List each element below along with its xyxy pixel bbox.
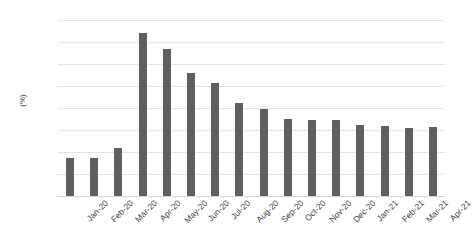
x-axis-tick-label: Aug-20 (254, 198, 280, 224)
bar-slot (227, 20, 251, 196)
x-axis-tick-label: Jul-20 (229, 198, 252, 221)
bar-slot (324, 20, 348, 196)
bar-slot (397, 20, 421, 196)
bar-slot (203, 20, 227, 196)
bar-slot (372, 20, 396, 196)
x-axis-tick-label: Apr-20 (157, 198, 182, 223)
gridline (58, 196, 445, 197)
bar-slot (179, 20, 203, 196)
x-axis-tick-label: Jan-21 (375, 198, 400, 223)
x-axis-tick-label: Mar-20 (133, 198, 159, 224)
bar (211, 83, 219, 196)
bar (429, 127, 437, 196)
bar (308, 120, 316, 196)
bar-slot (155, 20, 179, 196)
x-axis-tick-label: Feb-21 (399, 198, 425, 224)
x-axis-tick-label: Jan-20 (85, 198, 110, 223)
bar (163, 49, 171, 196)
bar (284, 119, 292, 196)
bar-slot (106, 20, 130, 196)
bar (260, 109, 268, 196)
bar (381, 126, 389, 196)
x-axis-tick-labels: Jan-20Feb-20Mar-20Apr-20May-20Jun-20Jul-… (58, 198, 445, 246)
x-axis-tick-label: Jun-20 (206, 198, 231, 223)
plot-area: 0.02.04.06.08.010.012.014.016.0 (58, 20, 445, 196)
x-axis-tick-label: Dec-20 (351, 198, 377, 224)
bar (66, 158, 74, 197)
x-axis-tick-label: Apr-21 (447, 198, 472, 223)
bar-slot (348, 20, 372, 196)
bar-slot (300, 20, 324, 196)
bar-slot (276, 20, 300, 196)
y-axis-title: (%) (18, 81, 27, 121)
bar (139, 33, 147, 196)
x-axis-tick-label: Feb-20 (109, 198, 135, 224)
bar-slot (252, 20, 276, 196)
x-axis-tick-label: Mar-21 (424, 198, 450, 224)
bar-slot (58, 20, 82, 196)
x-axis-tick-label: Oct-20 (302, 198, 327, 223)
x-axis-tick-label: May-20 (182, 198, 209, 225)
bar (356, 125, 364, 197)
bar (90, 158, 98, 197)
bar-slot (131, 20, 155, 196)
bar-slot (421, 20, 445, 196)
bar-slot (82, 20, 106, 196)
bar (332, 120, 340, 196)
bar (235, 103, 243, 197)
x-axis-tick-label: Nov-20 (327, 198, 353, 224)
bar (187, 73, 195, 196)
x-axis-tick-label: Sep-20 (279, 198, 305, 224)
bar (114, 148, 122, 196)
bar-series (58, 20, 445, 196)
bar (405, 128, 413, 196)
